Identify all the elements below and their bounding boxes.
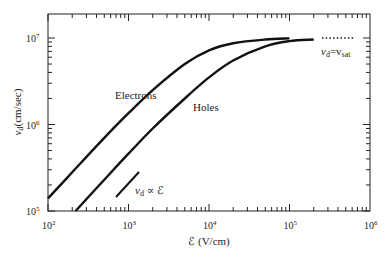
x-tick-label: 106 <box>364 219 378 231</box>
proportional-label: vd ∝ ℰ <box>135 184 164 198</box>
x-tick-label: 104 <box>203 219 217 231</box>
electrons-label: Electrons <box>115 89 157 101</box>
x-axis-title: ℰ (V/cm) <box>188 235 230 248</box>
holes-label: Holes <box>193 101 219 113</box>
electrons-curve <box>48 38 290 198</box>
y-axis-title: vd(cm/sec) <box>11 88 25 135</box>
drift-velocity-chart: Electrons Holes vd ∝ ℰ vd=vsat 102103104… <box>0 0 392 260</box>
saturation-label: vd=vsat <box>321 45 351 59</box>
x-tick-label: 103 <box>123 219 137 231</box>
y-tick-label: 107 <box>26 32 40 44</box>
y-tick-label: 105 <box>26 205 40 217</box>
x-tick-label: 105 <box>284 219 298 231</box>
y-tick-label: 106 <box>26 119 40 131</box>
holes-curve <box>76 40 314 212</box>
x-tick-labels: 102103104105106 <box>42 219 378 231</box>
x-tick-label: 102 <box>42 219 56 231</box>
y-tick-labels: 105106107 <box>26 32 40 217</box>
